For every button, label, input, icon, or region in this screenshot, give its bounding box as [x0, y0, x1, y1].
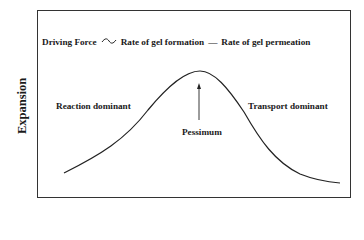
pessimum-label: Pessimum: [182, 127, 222, 137]
transport-dominant-label: Transport dominant: [248, 101, 328, 111]
pessimum-arrow-head: [197, 83, 201, 89]
reaction-dominant-label: Reaction dominant: [56, 101, 131, 111]
